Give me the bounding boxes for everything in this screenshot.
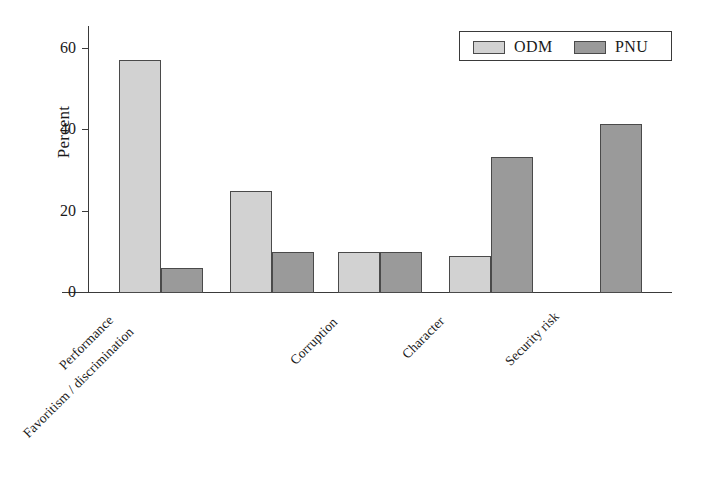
- y-tick-label-0: 0: [36, 283, 76, 301]
- legend-entry-odm: ODM: [473, 38, 553, 56]
- bar-performance-pnu: [161, 268, 203, 293]
- legend-entry-pnu: PNU: [574, 38, 648, 56]
- y-tick-mark-40: [82, 129, 88, 130]
- bar-performance-odm: [119, 60, 161, 293]
- y-tick-label-40: 40: [36, 120, 76, 138]
- x-category-label-corruption: Corruption: [287, 314, 341, 368]
- y-tick-label-60: 60: [36, 39, 76, 57]
- legend-label-odm: ODM: [514, 38, 553, 56]
- plot-area: Percent 60 40 20 0 Performance Favoritis…: [0, 0, 701, 499]
- bar-favoritism-odm: [230, 191, 272, 293]
- y-axis-spine: [88, 26, 89, 293]
- legend-label-pnu: PNU: [615, 38, 648, 56]
- bar-character-odm: [449, 256, 491, 293]
- y-tick-mark-20: [82, 211, 88, 212]
- legend-swatch-odm-icon: [473, 41, 505, 54]
- y-tick-mark-0: [82, 292, 88, 293]
- chart-page: Percent 60 40 20 0 Performance Favoritis…: [0, 0, 701, 499]
- legend: ODM PNU: [459, 31, 672, 61]
- x-category-label-security-risk: Security risk: [502, 309, 563, 370]
- bar-character-pnu: [491, 157, 533, 293]
- y-tick-label-20: 20: [36, 202, 76, 220]
- bar-corruption-pnu: [380, 252, 422, 293]
- bar-security-risk-pnu: [600, 124, 642, 293]
- bar-corruption-odm: [338, 252, 380, 293]
- x-category-label-character: Character: [399, 313, 448, 362]
- bar-favoritism-pnu: [272, 252, 314, 293]
- legend-swatch-pnu-icon: [574, 41, 606, 54]
- y-tick-mark-60: [82, 48, 88, 49]
